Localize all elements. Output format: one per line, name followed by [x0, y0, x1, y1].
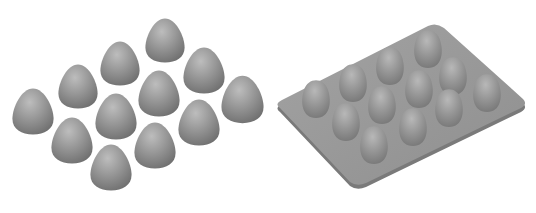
tray-bump [339, 64, 367, 102]
egg [134, 122, 175, 168]
egg [90, 144, 131, 190]
egg [221, 76, 263, 123]
tray-bump [302, 80, 330, 118]
tray-bump [368, 86, 396, 124]
egg [183, 47, 224, 93]
tray-bump [473, 74, 501, 112]
tray-bump [414, 30, 442, 68]
egg [12, 88, 53, 134]
egg [138, 70, 179, 116]
egg [100, 42, 139, 86]
tray-bump [332, 103, 360, 141]
egg-illustration [0, 0, 536, 213]
egg [178, 99, 219, 145]
tray-bump [376, 47, 404, 85]
tray-bump [439, 57, 467, 95]
egg-tray-panel [277, 24, 525, 188]
tray-bump [405, 70, 433, 108]
egg [145, 19, 184, 63]
tray-bump [399, 108, 427, 146]
loose-eggs-panel [12, 19, 263, 191]
egg [51, 117, 92, 163]
tray-bump [435, 89, 463, 127]
egg [58, 65, 97, 109]
egg [95, 93, 136, 139]
tray-bump [360, 126, 388, 164]
